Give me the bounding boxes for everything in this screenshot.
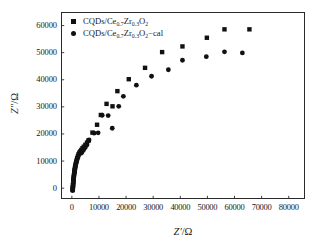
y-tick-label: 20000 (36, 129, 57, 138)
legend-item-label: CQDs/Ce0.7Zr0.3O2−cal (83, 29, 163, 38)
chart-legend: CQDs/Ce0.7Zr0.3O2CQDs/Ce0.7Zr0.3O2−cal (68, 16, 163, 39)
legend-item-1[interactable]: CQDs/Ce0.7Zr0.3O2 (68, 16, 163, 27)
legend-item-2[interactable]: CQDs/Ce0.7Zr0.3O2−cal (68, 28, 163, 39)
y-axis-title: Z″/Ω (9, 74, 20, 134)
legend-square-marker-icon (68, 19, 79, 24)
plot-area-frame (61, 12, 305, 199)
x-tick-label: 80000 (269, 203, 309, 212)
y-tick-label: 10000 (36, 157, 57, 166)
y-axis-title-unit: /Ω (9, 93, 20, 104)
x-axis-title-unit: /Ω (182, 226, 193, 237)
y-axis-title-symbol: Z″ (9, 104, 20, 114)
legend-circle-marker-icon (68, 31, 79, 36)
legend-item-label: CQDs/Ce0.7Zr0.3O2 (83, 17, 148, 26)
y-tick-label: 40000 (36, 75, 57, 84)
y-tick-label: 0 (53, 184, 57, 193)
marker-glyph (71, 31, 76, 36)
nyquist-plot-figure: 0100002000030000400005000060000 01000020… (0, 0, 318, 251)
marker-glyph (71, 19, 76, 24)
x-axis-title: Z′/Ω (61, 226, 305, 237)
y-tick-label: 50000 (36, 48, 57, 57)
y-tick-label: 60000 (36, 21, 57, 30)
y-tick-label: 30000 (36, 102, 57, 111)
x-axis-title-symbol: Z′ (174, 226, 182, 237)
